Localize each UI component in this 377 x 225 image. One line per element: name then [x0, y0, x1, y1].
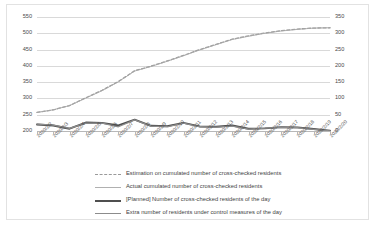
legend-line-swatch-icon [95, 209, 121, 217]
y-axis-right-tick-label: 200 [335, 63, 355, 69]
legend-item-label: [Planned] Number of cross-checked reside… [126, 197, 270, 203]
legend-line-swatch-icon [95, 196, 121, 204]
legend-item-label: Actual cumulated number of cross-checked… [126, 184, 262, 190]
y-axis-left-tick-label: 300 [12, 95, 32, 101]
y-axis-right-tick-label: 100 [335, 95, 355, 101]
legend-item[interactable]: [Planned] Number of cross-checked reside… [95, 193, 335, 206]
y-axis-right-tick-label: 50 [335, 112, 355, 118]
series-line-1 [37, 28, 330, 113]
y-axis-right-tick-label: 250 [335, 47, 355, 53]
plot-area [37, 17, 330, 131]
series-line-2 [37, 28, 330, 113]
series-layer [37, 17, 330, 131]
chart-legend: Estimation on cumulated number of cross-… [95, 167, 335, 219]
y-axis-right-tick-label: 350 [335, 14, 355, 20]
legend-item-label: Estimation on cumulated number of cross-… [126, 171, 281, 177]
y-axis-left-tick-label: 250 [12, 112, 32, 118]
legend-item[interactable]: Estimation on cumulated number of cross-… [95, 167, 335, 180]
x-axis: 2020/2/22020/2/32020/2/42020/2/52020/2/6… [37, 131, 330, 165]
legend-line-swatch-icon [95, 170, 121, 178]
y-axis-left-tick-label: 450 [12, 47, 32, 53]
y-axis-right-tick-label: 300 [335, 30, 355, 36]
y-axis-left-tick-label: 550 [12, 14, 32, 20]
legend-line-swatch-icon [95, 183, 121, 191]
y-axis-left-tick-label: 350 [12, 79, 32, 85]
legend-item[interactable]: Extra number of residents under control … [95, 206, 335, 219]
y-axis-right-tick-label: 150 [335, 79, 355, 85]
chart-container: 200250300350400450500550 050100150200250… [6, 4, 369, 220]
legend-item-label: Extra number of residents under control … [126, 210, 282, 216]
y-axis-left-tick-label: 500 [12, 30, 32, 36]
legend-item[interactable]: Actual cumulated number of cross-checked… [95, 180, 335, 193]
y-axis-left-tick-label: 200 [12, 128, 32, 134]
y-axis-left-tick-label: 400 [12, 63, 32, 69]
